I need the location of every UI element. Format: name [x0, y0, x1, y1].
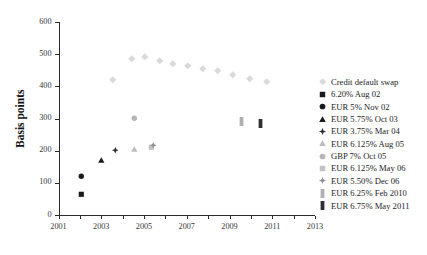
data-point	[214, 67, 222, 75]
x-tick-mark	[315, 216, 316, 219]
legend-item[interactable]: EUR 6.125% Aug 05	[316, 138, 404, 150]
legend-item-label: EUR 6.75% May 2011	[331, 200, 409, 212]
chart-legend: Credit default swap6.20% Aug 02EUR 5% No…	[316, 76, 427, 216]
legend-item[interactable]: EUR 6.25% Feb 2010	[316, 187, 407, 199]
y-tick-label: 0	[23, 210, 52, 219]
y-tick-label: 500	[23, 49, 52, 58]
legend-item-label: EUR 5% Nov 02	[331, 101, 389, 113]
data-point	[229, 71, 237, 79]
legend-item-label: EUR 6.125% May 06	[331, 162, 405, 174]
legend-marker-icon	[316, 165, 329, 172]
data-point	[263, 78, 271, 86]
y-tick-label: 400	[23, 81, 52, 90]
data-point	[112, 147, 119, 154]
y-tick-mark	[55, 151, 58, 152]
data-point	[246, 75, 254, 83]
y-tick-mark	[55, 86, 58, 87]
legend-item-label: EUR 5.75% Oct 03	[331, 113, 398, 125]
legend-item[interactable]: EUR 5.75% Oct 03	[316, 113, 398, 125]
data-point	[169, 60, 177, 68]
x-tick-mark	[251, 216, 252, 219]
data-point	[199, 65, 207, 73]
data-point	[256, 119, 265, 128]
legend-item-label: EUR 6.25% Feb 2010	[331, 187, 407, 199]
legend-item[interactable]: EUR 5% Nov 02	[316, 101, 389, 113]
y-tick-mark	[55, 183, 58, 184]
x-tick-label: 2001	[39, 222, 79, 231]
legend-item[interactable]: EUR 3.75% Mar 04	[316, 125, 400, 137]
data-point	[184, 62, 192, 70]
x-tick-label: 2007	[167, 222, 207, 231]
x-tick-label: 2009	[210, 222, 250, 231]
legend-item[interactable]: Credit default swap	[316, 76, 398, 88]
x-tick-label: 2003	[81, 222, 121, 231]
x-tick-label: 2013	[295, 222, 335, 231]
legend-marker-icon	[316, 103, 329, 110]
x-tick-label: 2005	[124, 222, 164, 231]
y-tick-label: 600	[23, 17, 52, 26]
legend-marker-icon	[316, 140, 329, 147]
y-tick-mark	[55, 22, 58, 23]
legend-item-label: EUR 3.75% Mar 04	[331, 125, 400, 137]
data-point	[128, 55, 136, 63]
legend-item[interactable]: GBP 7% Oct 05	[316, 150, 386, 162]
x-tick-mark	[187, 216, 188, 219]
legend-marker-icon	[316, 177, 329, 184]
x-tick-mark	[294, 216, 295, 219]
data-point	[237, 117, 246, 126]
x-tick-mark	[165, 216, 166, 219]
legend-marker-icon	[316, 116, 329, 123]
x-tick-mark	[101, 216, 102, 219]
data-point	[131, 115, 138, 122]
y-tick-label: 300	[23, 113, 52, 122]
legend-marker-icon	[316, 201, 329, 210]
data-point	[141, 53, 149, 61]
y-tick-label: 100	[23, 177, 52, 186]
y-tick-mark	[55, 54, 58, 55]
legend-item[interactable]: EUR 6.75% May 2011	[316, 200, 409, 212]
legend-item-label: Credit default swap	[331, 76, 398, 88]
data-point	[109, 76, 117, 84]
x-tick-mark	[208, 216, 209, 219]
data-point	[131, 146, 138, 153]
legend-marker-icon	[316, 153, 329, 160]
x-tick-mark	[80, 216, 81, 219]
y-tick-mark	[55, 119, 58, 120]
data-point	[156, 57, 164, 65]
legend-item-label: EUR 6.125% Aug 05	[331, 138, 404, 150]
x-tick-mark	[123, 216, 124, 219]
scatter-chart-figure: Basis points 0100200300400500600 2001200…	[0, 0, 427, 255]
legend-item[interactable]: EUR 5.50% Dec 06	[316, 175, 399, 187]
legend-item-label: 6.20% Aug 02	[331, 88, 380, 100]
x-tick-mark	[59, 216, 60, 219]
x-tick-mark	[272, 216, 273, 219]
x-tick-mark	[230, 216, 231, 219]
legend-marker-icon	[316, 78, 329, 86]
legend-marker-icon	[316, 128, 329, 135]
data-point	[98, 157, 105, 164]
data-point	[150, 142, 157, 149]
y-tick-label: 200	[23, 145, 52, 154]
x-tick-label: 2011	[252, 222, 292, 231]
legend-marker-icon	[316, 189, 329, 198]
data-point	[78, 173, 85, 180]
legend-item-label: EUR 5.50% Dec 06	[331, 175, 399, 187]
data-point	[78, 191, 85, 198]
legend-item[interactable]: 6.20% Aug 02	[316, 88, 380, 100]
legend-item[interactable]: EUR 6.125% May 06	[316, 162, 405, 174]
legend-marker-icon	[316, 91, 329, 98]
legend-item-label: GBP 7% Oct 05	[331, 150, 386, 162]
x-tick-mark	[144, 216, 145, 219]
